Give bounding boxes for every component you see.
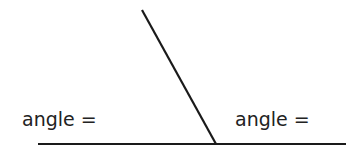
slanted-ray-line [142,10,216,144]
angle-diagram: angle = angle = [0,0,362,156]
right-angle-label: angle = [235,110,310,129]
left-angle-label: angle = [22,110,97,129]
diagram-lines [0,0,362,156]
